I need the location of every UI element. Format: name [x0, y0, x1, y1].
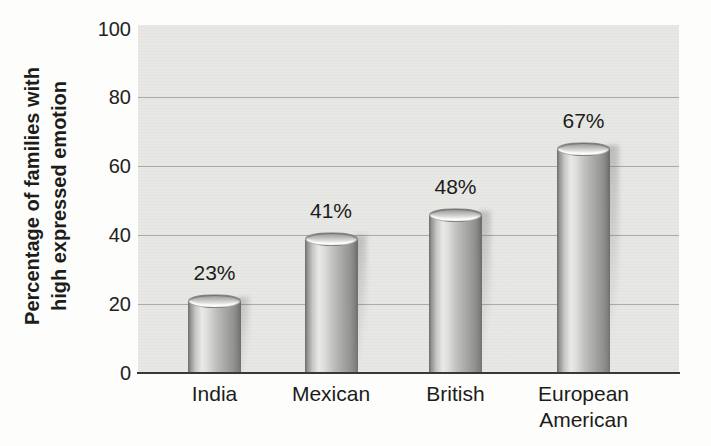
gridline-80	[138, 97, 679, 98]
bar-top-ellipse	[305, 232, 358, 246]
bar-body	[305, 239, 358, 373]
category-label: European American	[524, 381, 644, 433]
bar-value-label: 48%	[414, 175, 498, 199]
bar-cylinder-0	[188, 294, 241, 373]
category-label: British	[396, 381, 516, 407]
category-label: Mexican	[271, 381, 391, 407]
bar-value-label: 41%	[289, 199, 373, 223]
category-label: India	[155, 381, 275, 407]
bar-body	[188, 301, 241, 373]
bar-top-ellipse	[429, 208, 482, 222]
y-tick-label: 100	[0, 17, 131, 41]
y-tick-label: 80	[0, 85, 131, 109]
bar-cylinder-1	[305, 232, 358, 373]
y-tick-label: 60	[0, 154, 131, 178]
bar-value-label: 23%	[173, 261, 257, 285]
y-tick-label: 0	[0, 361, 131, 385]
x-axis-line	[137, 372, 680, 374]
bar-top-ellipse	[188, 294, 241, 308]
bar-cylinder-3	[557, 142, 610, 373]
y-tick-label: 20	[0, 292, 131, 316]
bar-body	[557, 149, 610, 373]
bar-chart-figure: Percentage of families with high express…	[0, 0, 711, 446]
bar-value-label: 67%	[542, 109, 626, 133]
y-tick-label: 40	[0, 223, 131, 247]
bar-body	[429, 215, 482, 373]
bar-cylinder-2	[429, 208, 482, 373]
